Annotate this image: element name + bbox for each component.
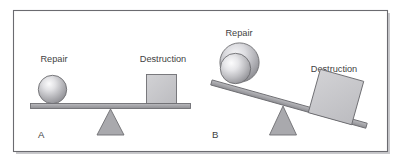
- panel-a-destruction-label: Destruction: [140, 54, 186, 64]
- figure-container: Repair Destruction A Repair Destruction: [0, 0, 401, 164]
- panel-b-destruction-label: Destruction: [311, 64, 357, 74]
- panel-b-repair-label: Repair: [225, 28, 252, 38]
- panel-b-letter: B: [212, 129, 218, 140]
- panel-a-beam: [31, 104, 191, 109]
- balance-diagram: Repair Destruction A Repair Destruction: [0, 0, 401, 164]
- panel-a-repair-sphere: [38, 75, 66, 103]
- panel-a-repair-label: Repair: [40, 54, 67, 64]
- panel-a-letter: A: [38, 129, 45, 140]
- panel-a-destruction-box: [147, 75, 177, 104]
- panel-b-repair-sphere-inner: [220, 53, 250, 83]
